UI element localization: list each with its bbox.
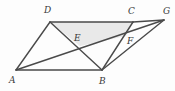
vertex-label-c: C — [128, 6, 135, 16]
vertex-label-b: B — [98, 76, 106, 86]
vertex-label-d: D — [43, 5, 51, 15]
vertex-label-e: E — [73, 33, 81, 43]
segment-ad — [16, 22, 50, 70]
vertex-label-f: F — [126, 36, 134, 46]
vertex-label-a: A — [8, 75, 16, 85]
geometry-figure: A B C D E F G — [0, 0, 175, 91]
vertex-label-g: G — [163, 6, 170, 16]
geometry-canvas: A B C D E F G — [0, 0, 175, 91]
